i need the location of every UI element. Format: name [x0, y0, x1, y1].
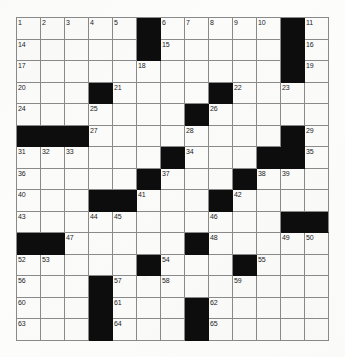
grid-cell[interactable]	[137, 126, 161, 148]
grid-cell[interactable]	[305, 83, 329, 105]
grid-cell[interactable]	[233, 61, 257, 83]
grid-cell[interactable]	[161, 233, 185, 255]
grid-cell[interactable]	[209, 255, 233, 277]
grid-cell[interactable]: 15	[161, 40, 185, 62]
grid-cell[interactable]: 9	[233, 18, 257, 40]
grid-cell[interactable]	[65, 212, 89, 234]
grid-cell[interactable]: 25	[89, 104, 113, 126]
grid-cell[interactable]	[161, 126, 185, 148]
grid-cell[interactable]	[41, 190, 65, 212]
grid-cell[interactable]	[209, 169, 233, 191]
grid-cell[interactable]	[137, 319, 161, 341]
grid-cell[interactable]	[209, 126, 233, 148]
grid-cell[interactable]: 16	[305, 40, 329, 62]
grid-cell[interactable]: 57	[113, 276, 137, 298]
grid-cell[interactable]: 41	[137, 190, 161, 212]
grid-cell[interactable]	[161, 190, 185, 212]
grid-cell[interactable]: 50	[305, 233, 329, 255]
grid-cell[interactable]	[209, 276, 233, 298]
grid-cell[interactable]: 40	[17, 190, 41, 212]
grid-cell[interactable]: 26	[209, 104, 233, 126]
grid-cell[interactable]: 48	[209, 233, 233, 255]
grid-cell[interactable]	[65, 40, 89, 62]
grid-cell[interactable]: 24	[17, 104, 41, 126]
grid-cell[interactable]: 4	[89, 18, 113, 40]
grid-cell[interactable]: 43	[17, 212, 41, 234]
grid-cell[interactable]	[185, 61, 209, 83]
grid-cell[interactable]	[185, 190, 209, 212]
grid-cell[interactable]	[41, 169, 65, 191]
grid-cell[interactable]: 38	[257, 169, 281, 191]
grid-cell[interactable]	[233, 104, 257, 126]
grid-cell[interactable]	[41, 319, 65, 341]
grid-cell[interactable]: 52	[17, 255, 41, 277]
grid-cell[interactable]: 19	[305, 61, 329, 83]
grid-cell[interactable]: 8	[209, 18, 233, 40]
grid-cell[interactable]	[305, 104, 329, 126]
grid-cell[interactable]	[161, 319, 185, 341]
grid-cell[interactable]: 28	[185, 126, 209, 148]
grid-cell[interactable]	[41, 61, 65, 83]
grid-cell[interactable]	[281, 255, 305, 277]
grid-cell[interactable]	[257, 190, 281, 212]
grid-cell[interactable]	[41, 104, 65, 126]
grid-cell[interactable]: 65	[209, 319, 233, 341]
grid-cell[interactable]	[257, 298, 281, 320]
grid-cell[interactable]	[281, 319, 305, 341]
grid-cell[interactable]	[305, 255, 329, 277]
grid-cell[interactable]	[41, 212, 65, 234]
grid-cell[interactable]	[209, 147, 233, 169]
grid-cell[interactable]	[185, 83, 209, 105]
grid-cell[interactable]	[257, 40, 281, 62]
grid-cell[interactable]	[41, 40, 65, 62]
grid-cell[interactable]	[113, 169, 137, 191]
grid-cell[interactable]: 5	[113, 18, 137, 40]
grid-cell[interactable]	[233, 233, 257, 255]
grid-cell[interactable]	[257, 61, 281, 83]
grid-cell[interactable]	[65, 169, 89, 191]
grid-cell[interactable]	[257, 126, 281, 148]
grid-cell[interactable]: 46	[209, 212, 233, 234]
grid-cell[interactable]: 64	[113, 319, 137, 341]
grid-cell[interactable]	[113, 255, 137, 277]
grid-cell[interactable]	[41, 276, 65, 298]
grid-cell[interactable]: 37	[161, 169, 185, 191]
grid-cell[interactable]	[305, 319, 329, 341]
grid-cell[interactable]	[305, 276, 329, 298]
grid-cell[interactable]: 33	[65, 147, 89, 169]
grid-cell[interactable]	[113, 147, 137, 169]
grid-cell[interactable]	[257, 319, 281, 341]
grid-cell[interactable]: 17	[17, 61, 41, 83]
grid-cell[interactable]: 18	[137, 61, 161, 83]
grid-cell[interactable]	[185, 169, 209, 191]
grid-cell[interactable]	[185, 212, 209, 234]
grid-cell[interactable]: 61	[113, 298, 137, 320]
grid-cell[interactable]: 44	[89, 212, 113, 234]
grid-cell[interactable]: 36	[17, 169, 41, 191]
grid-cell[interactable]	[161, 212, 185, 234]
grid-cell[interactable]	[233, 212, 257, 234]
grid-cell[interactable]	[41, 83, 65, 105]
grid-cell[interactable]: 54	[161, 255, 185, 277]
grid-cell[interactable]	[209, 40, 233, 62]
grid-cell[interactable]	[89, 255, 113, 277]
grid-cell[interactable]: 21	[113, 83, 137, 105]
grid-cell[interactable]: 14	[17, 40, 41, 62]
grid-cell[interactable]	[233, 147, 257, 169]
grid-cell[interactable]: 2	[41, 18, 65, 40]
grid-cell[interactable]: 11	[305, 18, 329, 40]
grid-cell[interactable]: 55	[257, 255, 281, 277]
grid-cell[interactable]	[137, 233, 161, 255]
grid-cell[interactable]	[257, 276, 281, 298]
grid-cell[interactable]: 10	[257, 18, 281, 40]
grid-cell[interactable]	[161, 61, 185, 83]
grid-cell[interactable]	[89, 169, 113, 191]
grid-cell[interactable]	[281, 276, 305, 298]
grid-cell[interactable]	[281, 190, 305, 212]
grid-cell[interactable]: 31	[17, 147, 41, 169]
grid-cell[interactable]: 7	[185, 18, 209, 40]
grid-cell[interactable]: 58	[161, 276, 185, 298]
grid-cell[interactable]: 45	[113, 212, 137, 234]
grid-cell[interactable]: 22	[233, 83, 257, 105]
grid-cell[interactable]	[233, 40, 257, 62]
